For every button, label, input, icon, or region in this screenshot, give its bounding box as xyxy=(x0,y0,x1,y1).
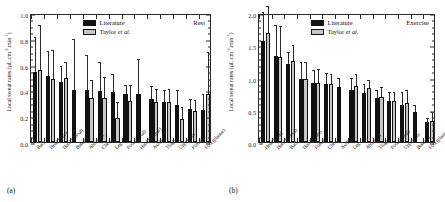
bar-literature xyxy=(72,90,76,142)
error-cap-literature xyxy=(150,86,153,87)
bar-taylor xyxy=(354,86,358,142)
y-tick-minor xyxy=(259,131,261,132)
error-bar-taylor xyxy=(53,51,54,79)
legend-label-literature: Literature xyxy=(100,19,125,26)
error-bar-taylor xyxy=(356,75,357,86)
bar-literature xyxy=(123,94,127,142)
x-tick-mark xyxy=(70,138,71,142)
bar-literature xyxy=(162,102,166,142)
legend-label-taylor: Taylor et al. xyxy=(328,28,359,35)
y-tick-mark-right xyxy=(206,66,210,67)
y-tick-minor-right xyxy=(208,111,210,112)
y-tick-label: 1.5 xyxy=(248,44,259,51)
bar-taylor xyxy=(102,98,106,143)
error-cap-taylor xyxy=(168,89,171,90)
x-tick-mark xyxy=(31,138,32,142)
y-tick-minor xyxy=(259,53,261,54)
panel-b-tag: (b) xyxy=(229,186,238,195)
x-tick-mark xyxy=(348,138,349,142)
y-tick-minor-right xyxy=(432,27,434,28)
y-tick-minor-right xyxy=(432,131,434,132)
x-tick-mark xyxy=(83,138,84,142)
legend-label-literature: Literature xyxy=(328,19,353,26)
x-tick-mark-top xyxy=(272,15,273,19)
error-bar-taylor xyxy=(331,75,332,84)
bar-group xyxy=(373,15,386,142)
y-tick-minor-right xyxy=(208,73,210,74)
y-tick-mark-right xyxy=(430,111,434,112)
error-cap-taylor xyxy=(129,85,132,86)
error-cap-taylor xyxy=(304,62,307,63)
x-tick-mark xyxy=(272,138,273,142)
error-cap-literature xyxy=(262,12,265,13)
error-bar-literature xyxy=(113,75,114,92)
panel-b-exercise: Local sweat rates (µL.cm-2.min-1) 0.00.5… xyxy=(222,0,444,202)
bar-literature xyxy=(337,87,341,142)
error-cap-literature xyxy=(350,78,353,79)
error-cap-taylor xyxy=(103,77,106,78)
y-tick-label: 2.0 xyxy=(248,12,259,19)
error-cap-literature xyxy=(189,99,192,100)
y-tick-minor-right xyxy=(208,124,210,125)
error-cap-taylor xyxy=(317,69,320,70)
y-tick-mark xyxy=(259,144,263,145)
y-tick-minor-right xyxy=(208,27,210,28)
error-bar-literature xyxy=(389,93,390,100)
y-tick-minor xyxy=(259,21,261,22)
error-bar-taylor xyxy=(117,103,118,118)
x-tick-mark-top xyxy=(373,15,374,19)
error-bar-literature xyxy=(151,87,152,99)
bar-literature xyxy=(400,105,404,142)
bar-group xyxy=(360,15,373,142)
error-cap-taylor xyxy=(64,62,67,63)
y-tick-minor xyxy=(259,66,261,67)
error-cap-taylor xyxy=(330,74,333,75)
bar-literature xyxy=(299,79,303,142)
y-tick-minor-right xyxy=(208,47,210,48)
error-bar-taylor xyxy=(268,7,269,34)
bar-group xyxy=(134,15,147,142)
error-bar-taylor xyxy=(195,100,196,111)
bar-taylor xyxy=(278,57,282,142)
y-tick-minor xyxy=(259,73,261,74)
x-tick-mark xyxy=(360,138,361,142)
bar-taylor xyxy=(51,79,55,142)
x-tick-mark xyxy=(335,138,336,142)
error-cap-taylor xyxy=(355,74,358,75)
error-bar-literature xyxy=(164,91,165,102)
legend-label-taylor: Taylor et al. xyxy=(100,28,131,35)
y-tick-minor xyxy=(259,27,261,28)
x-tick-mark xyxy=(109,138,110,142)
y-tick-minor xyxy=(31,124,33,125)
error-cap-literature xyxy=(85,55,88,56)
y-tick-minor xyxy=(259,124,261,125)
y-tick-minor xyxy=(31,111,33,112)
panel-b-y-axis-label: Local sweat rates (µL.cm-2.min-1) xyxy=(226,2,237,142)
error-cap-taylor xyxy=(266,6,269,7)
error-cap-literature xyxy=(163,90,166,91)
bar-taylor xyxy=(266,33,270,142)
bar-taylor xyxy=(291,61,295,142)
error-cap-taylor xyxy=(405,90,408,91)
error-cap-taylor xyxy=(38,25,41,26)
y-tick-mark xyxy=(259,111,263,112)
y-tick-label: 0.0 xyxy=(20,141,31,148)
y-tick-minor-right xyxy=(432,40,434,41)
legend-item-taylor: Taylor et al. xyxy=(311,27,358,36)
y-tick-minor-right xyxy=(432,92,434,93)
legend-swatch-literature xyxy=(83,20,96,26)
error-cap-literature xyxy=(312,70,315,71)
y-tick-minor-right xyxy=(432,137,434,138)
y-tick-minor xyxy=(31,47,33,48)
y-tick-minor-right xyxy=(432,60,434,61)
error-cap-literature xyxy=(413,105,416,106)
error-bar-taylor xyxy=(318,69,319,82)
x-tick-mark xyxy=(259,138,260,142)
error-cap-taylor xyxy=(90,80,93,81)
error-bar-literature xyxy=(288,53,289,64)
y-tick-minor-right xyxy=(432,66,434,67)
bar-taylor xyxy=(316,83,320,142)
error-bar-taylor xyxy=(381,88,382,97)
error-cap-literature xyxy=(426,118,429,119)
x-tick-mark xyxy=(322,138,323,142)
